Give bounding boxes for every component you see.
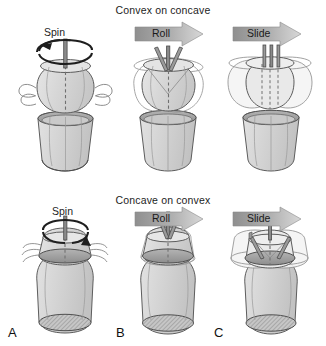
panel-a-top-graphic [19, 39, 112, 171]
panel-b-bottom-graphic [140, 212, 195, 334]
diagram-canvas [0, 0, 326, 346]
slide-label-top: Slide [247, 27, 270, 39]
panel-b-top-graphic [134, 46, 204, 171]
panel-letter-a: A [8, 325, 17, 340]
roll-label-top: Roll [152, 27, 170, 39]
panel-c-top-graphic [228, 45, 312, 171]
concave-cup-lower-c1 [243, 110, 299, 171]
roll-label-bottom: Roll [152, 212, 170, 224]
arthrokinematics-figure: Convex on concave Concave on convex [0, 0, 326, 346]
panel-letter-b: B [116, 325, 125, 340]
panel-a-bottom-graphic [22, 216, 108, 333]
concave-cup-lower-b1 [140, 110, 196, 171]
panel-letter-c: C [214, 325, 223, 340]
convex-body-lower-b2 [141, 254, 196, 334]
concave-cup-lower-a1 [38, 111, 93, 171]
slide-axis-rods-c1 [263, 45, 280, 67]
panel-c-bottom-graphic [231, 214, 308, 334]
slide-label-bottom: Slide [247, 212, 270, 224]
